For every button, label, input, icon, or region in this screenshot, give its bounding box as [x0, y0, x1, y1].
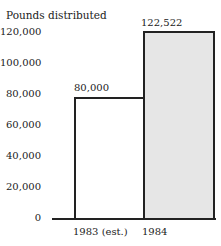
x-axis-line [52, 218, 216, 220]
bar-label-1983: 80,000 [74, 82, 109, 93]
x-tick-1983: 1983 (est.) [73, 226, 128, 237]
bar-label-1984: 122,522 [141, 17, 182, 28]
y-tick-60000: 60,000 [0, 119, 41, 130]
y-tick-20000: 20,000 [0, 181, 41, 192]
y-tick-100000: 100,000 [0, 57, 41, 68]
y-tick-120000: 120,000 [0, 26, 41, 37]
y-axis-title: Pounds distributed [6, 9, 107, 21]
bar-1983 [74, 97, 145, 219]
y-tick-40000: 40,000 [0, 150, 41, 161]
y-tick-0: 0 [0, 212, 41, 223]
bar-1984 [143, 31, 215, 219]
y-tick-80000: 80,000 [0, 88, 41, 99]
x-tick-1984: 1984 [142, 226, 167, 237]
